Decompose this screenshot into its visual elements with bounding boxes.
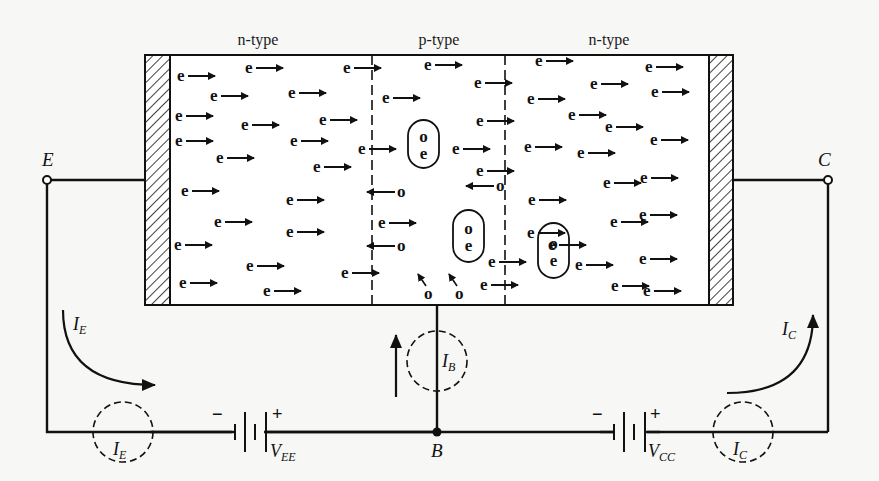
svg-text:IB: IB	[441, 351, 456, 374]
vcc-battery: − + VCC	[592, 404, 676, 464]
vcc-plus: +	[650, 404, 661, 424]
hole: o	[424, 284, 433, 303]
emitter-terminal[interactable]	[43, 176, 51, 184]
electron: e	[420, 144, 428, 163]
hole: o	[455, 284, 464, 303]
electron: e	[476, 111, 484, 130]
electron: e	[568, 105, 576, 124]
electron: e	[341, 263, 349, 282]
collector-terminal[interactable]	[824, 176, 832, 184]
electron: e	[313, 157, 321, 176]
emitter-current-arrow: IE	[63, 310, 155, 385]
electron: e	[241, 115, 249, 134]
electron: e	[382, 88, 390, 107]
electron: e	[175, 106, 183, 125]
electron: e	[527, 89, 535, 108]
hole: o	[397, 236, 406, 255]
electron: e	[643, 281, 651, 300]
electron: e	[605, 117, 613, 136]
electron: e	[177, 66, 185, 85]
electron: e	[174, 235, 182, 254]
electron: e	[319, 110, 327, 129]
electron: e	[575, 255, 583, 274]
electron: e	[263, 281, 271, 300]
collector-contact	[709, 55, 733, 305]
electron: e	[488, 252, 496, 271]
electron: e	[639, 249, 647, 268]
electron: e	[210, 86, 218, 105]
svg-text:IE: IE	[72, 314, 87, 337]
electron: e	[288, 83, 296, 102]
svg-text:IE: IE	[112, 439, 127, 462]
electron: e	[640, 168, 648, 187]
electron: e	[550, 251, 558, 270]
electron: e	[286, 190, 294, 209]
electron: e	[577, 143, 585, 162]
emitter-label: E	[41, 149, 54, 170]
vee-label: VEE	[270, 441, 296, 464]
base-label: B	[431, 440, 443, 461]
vcc-minus: −	[592, 404, 603, 424]
collector-label: C	[818, 149, 831, 170]
electron: e	[181, 181, 189, 200]
electron: e	[216, 148, 224, 167]
electron: e	[651, 82, 659, 101]
vcc-label: VCC	[648, 441, 676, 464]
electron: e	[611, 276, 619, 295]
region-label-collector: n-type	[589, 31, 630, 49]
electron: e	[645, 57, 653, 76]
vee-minus: −	[212, 404, 223, 424]
emitter-contact	[145, 55, 170, 305]
electron: e	[650, 130, 658, 149]
electron: e	[286, 222, 294, 241]
electron: e	[245, 58, 253, 77]
region-label-base: p-type	[419, 31, 460, 49]
electron: e	[378, 213, 386, 232]
electron: e	[452, 139, 460, 158]
hole: o	[496, 176, 505, 195]
vee-battery: − + VEE	[212, 404, 296, 464]
electron: e	[179, 273, 187, 292]
hole: o	[397, 182, 406, 201]
electron: e	[535, 51, 543, 70]
electron: e	[480, 275, 488, 294]
electron: e	[246, 256, 254, 275]
svg-text:IC: IC	[732, 439, 748, 462]
collector-current-arrow: IC	[727, 315, 813, 393]
electron: e	[528, 190, 536, 209]
vee-plus: +	[272, 404, 283, 424]
electron: e	[610, 212, 618, 231]
electron: e	[465, 236, 473, 255]
electron: e	[603, 173, 611, 192]
electron: e	[590, 74, 598, 93]
electron: e	[424, 55, 432, 74]
electron: e	[358, 139, 366, 158]
electron: e	[474, 73, 482, 92]
electron: e	[343, 58, 351, 77]
electron: e	[524, 137, 532, 156]
electron: e	[214, 212, 222, 231]
svg-text:IC: IC	[781, 319, 797, 342]
electron: e	[476, 161, 484, 180]
electron: e	[527, 223, 535, 242]
transistor-diagram: n-type p-type n-type eeeeeeeeeeeeeeeeeee…	[0, 0, 879, 481]
electron: e	[175, 131, 183, 150]
region-label-emitter: n-type	[238, 31, 279, 49]
electron: e	[290, 131, 298, 150]
